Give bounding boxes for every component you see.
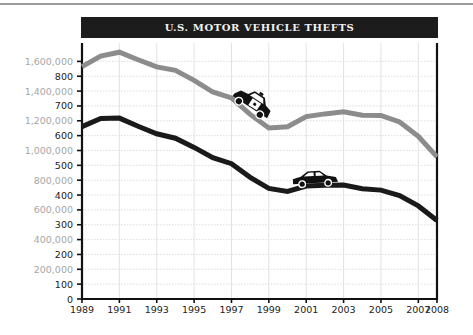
y-tick-label-thefts: 800,000 (34, 175, 73, 186)
y-tick-label-thefts: 1,600,000 (25, 56, 73, 67)
x-tick-label: 1997 (219, 304, 243, 315)
x-axis: 1989199119931995199719992001200320052007… (70, 299, 449, 315)
y-tick-label-rate: 100 (55, 279, 73, 290)
y-tick-label-thefts: 400,000 (34, 234, 73, 245)
y-tick-label-thefts: 600,000 (34, 204, 73, 215)
x-tick-label: 1999 (257, 304, 281, 315)
chart-canvas: 0200,000400,000600,000800,0001,000,0001,… (0, 0, 473, 335)
x-tick-label: 1995 (182, 304, 206, 315)
x-tick-label: 2008 (425, 304, 449, 315)
x-tick-label: 2003 (331, 304, 355, 315)
y-tick-label-rate: 800 (55, 71, 73, 82)
y-tick-label-rate: 700 (55, 100, 73, 111)
y-tick-label-zero: 0 (67, 294, 73, 305)
y-tick-label-thefts: 200,000 (34, 264, 73, 275)
y-tick-label-rate: 500 (55, 160, 73, 171)
y-tick-label-rate: 400 (55, 190, 73, 201)
y-tick-label-rate: 300 (55, 219, 73, 230)
y-axis: 0200,000400,000600,000800,0001,000,0001,… (25, 56, 82, 305)
y-tick-label-rate: 200 (55, 249, 73, 260)
y-tick-label-thefts: 1,400,000 (25, 86, 73, 97)
series-line-theft-rate (82, 118, 437, 220)
grid (82, 43, 437, 299)
y-tick-label-thefts: 1,000,000 (25, 145, 73, 156)
x-tick-label: 1993 (145, 304, 169, 315)
x-tick-label: 1991 (107, 304, 131, 315)
y-tick-label-thefts: 1,200,000 (25, 115, 73, 126)
plot-frame (81, 43, 438, 300)
y-tick-label-rate: 600 (55, 130, 73, 141)
x-tick-label: 2005 (369, 304, 393, 315)
x-tick-label: 2001 (294, 304, 318, 315)
x-tick-label: 1989 (70, 304, 94, 315)
